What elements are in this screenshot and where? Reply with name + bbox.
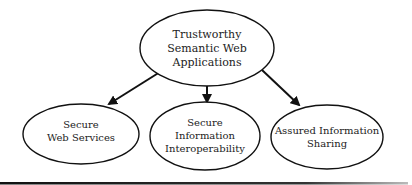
node-root: Trustworthy Semantic Web Applications (140, 10, 274, 86)
node-secure-information-interoperability: Secure Information Interoperability (150, 102, 260, 170)
node-web-services-line-2: Web Services (47, 132, 115, 143)
node-interop-line-3: Interoperability (165, 143, 245, 154)
node-sharing-line-1: Assured Information (274, 125, 380, 136)
node-interop-line-1: Secure (187, 117, 223, 128)
diagram-canvas: Trustworthy Semantic Web Applications Se… (0, 0, 412, 185)
node-secure-web-services: Secure Web Services (23, 104, 139, 164)
bottom-rule (0, 182, 408, 185)
node-web-services-line-1: Secure (63, 119, 99, 130)
node-root-line-3: Applications (171, 56, 241, 69)
node-root-line-1: Trustworthy (173, 28, 243, 41)
edge-root-to-information-sharing (262, 70, 299, 105)
node-root-line-2: Semantic Web (167, 42, 247, 55)
node-assured-information-sharing: Assured Information Sharing (271, 105, 383, 169)
node-sharing-line-2: Sharing (307, 138, 348, 149)
edge-root-to-web-services (109, 72, 160, 104)
node-interop-line-2: Information (175, 130, 236, 141)
